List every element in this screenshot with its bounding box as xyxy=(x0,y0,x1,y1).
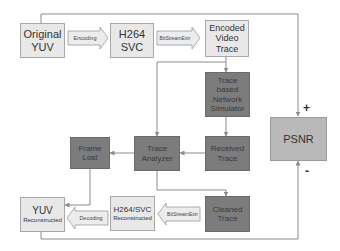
trace-analyzer-label: Trace Analyzer xyxy=(141,144,172,162)
frame-lost-node: Frame Lost xyxy=(70,137,110,169)
original-yuv-label: Original YUV xyxy=(24,28,62,53)
frame-lost-label: Frame Lost xyxy=(78,144,101,162)
h264-svc-node: H264 SVC xyxy=(110,23,154,58)
yuv-reconstructed-title: YUV xyxy=(32,205,53,217)
minus-sign: - xyxy=(305,164,309,178)
encoding-arrow-label: Encoding xyxy=(68,31,102,45)
h264-svc-label: H264 SVC xyxy=(119,28,145,53)
cleaned-trace-label: Cleaned Trace xyxy=(213,205,243,223)
encoded-video-trace-label: Encoded Video Trace xyxy=(209,23,245,54)
plus-sign: + xyxy=(303,101,310,115)
received-trace-node: Received Trace xyxy=(205,136,250,171)
bitstreamextr-bottom-arrow-label: BitStreamExtr xyxy=(165,207,200,221)
h264-svc-reconstructed-sub: Reconstructed xyxy=(113,215,152,222)
network-simulator-node: Trace based Network Simulator xyxy=(205,72,250,117)
h264-svc-reconstructed-node: H264/SVC Reconstructed xyxy=(110,196,155,231)
trace-analyzer-node: Trace Analyzer xyxy=(134,136,180,171)
psnr-label: PSNR xyxy=(283,133,314,146)
encoded-video-trace-node: Encoded Video Trace xyxy=(205,20,249,57)
bitstreamextr-top-arrow-label: BitStreamExtr xyxy=(157,31,193,45)
yuv-reconstructed-sub: Reconstructed xyxy=(23,217,62,224)
decoding-arrow-label: Decoding xyxy=(74,211,108,225)
original-yuv-node: Original YUV xyxy=(20,23,65,58)
network-simulator-label: Trace based Network Simulator xyxy=(211,76,245,113)
h264-svc-reconstructed-title: H264/SVC xyxy=(114,205,152,214)
yuv-reconstructed-node: YUV Reconstructed xyxy=(20,197,65,232)
cleaned-trace-node: Cleaned Trace xyxy=(205,196,250,232)
received-trace-label: Received Trace xyxy=(211,144,244,162)
psnr-node: PSNR xyxy=(270,117,327,161)
